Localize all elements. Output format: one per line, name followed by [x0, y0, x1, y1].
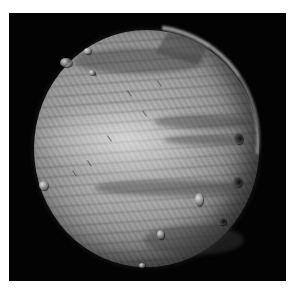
crater [39, 181, 48, 190]
crater [195, 193, 203, 206]
crater [89, 70, 95, 75]
surface-mark [127, 90, 132, 96]
crater [233, 177, 242, 187]
bright-limb-streak [147, 26, 275, 155]
crater [139, 263, 145, 268]
crater [84, 48, 91, 54]
surface-mark [72, 170, 77, 176]
crater [234, 133, 243, 144]
crater [219, 218, 226, 225]
surface-mark [87, 160, 92, 166]
surface-mark [142, 110, 147, 116]
crater [60, 58, 72, 67]
crater [157, 230, 164, 239]
photo-frame [9, 13, 286, 281]
surface-band [94, 180, 244, 196]
surface-mark [107, 135, 112, 141]
